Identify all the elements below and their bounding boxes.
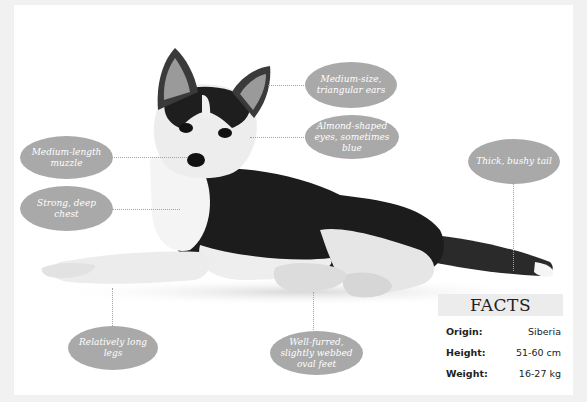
facts-value: Siberia	[528, 326, 561, 337]
tail-leader-line	[513, 183, 514, 271]
callout-ears: Medium-size, triangular ears	[305, 62, 397, 108]
facts-row-weight: Weight: 16-27 kg	[438, 368, 563, 379]
eyes-leader-line	[250, 137, 308, 138]
callout-tail: Thick, bushy tail	[468, 139, 560, 184]
callout-chest-text: Strong, deep chest	[28, 198, 105, 220]
feet-leader-line	[313, 292, 314, 330]
facts-row-height: Height: 51-60 cm	[438, 347, 563, 358]
callout-eyes-text: Almond-shaped eyes, sometimes blue	[313, 121, 391, 154]
callout-ears-text: Medium-size, triangular ears	[313, 74, 389, 96]
callout-feet-text: Well-furred, slightly webbed oval feet	[278, 337, 355, 370]
legs-leader-line	[112, 288, 113, 326]
callout-legs-text: Relatively long legs	[76, 337, 150, 359]
chest-leader-line	[112, 209, 180, 210]
facts-value: 16-27 kg	[519, 368, 561, 379]
callout-eyes: Almond-shaped eyes, sometimes blue	[305, 115, 399, 159]
callout-feet: Well-furred, slightly webbed oval feet	[270, 331, 363, 375]
callout-muzzle: Medium-length muzzle	[20, 136, 113, 179]
facts-label: Origin:	[446, 326, 483, 337]
ears-leader-line	[268, 85, 308, 86]
facts-panel: FACTS Origin: Siberia Height: 51-60 cm W…	[438, 294, 563, 379]
facts-value: 51-60 cm	[516, 347, 561, 358]
facts-label: Height:	[446, 347, 486, 358]
facts-label: Weight:	[446, 368, 488, 379]
callout-chest: Strong, deep chest	[20, 186, 113, 231]
callout-legs: Relatively long legs	[68, 326, 158, 370]
callout-tail-text: Thick, bushy tail	[476, 156, 552, 167]
facts-title: FACTS	[438, 294, 563, 316]
muzzle-leader-line	[112, 157, 187, 158]
facts-row-origin: Origin: Siberia	[438, 326, 563, 337]
callout-muzzle-text: Medium-length muzzle	[28, 147, 105, 169]
